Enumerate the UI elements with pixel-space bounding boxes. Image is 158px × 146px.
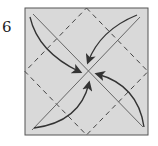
paper-square	[25, 8, 148, 135]
fold-diagram	[0, 0, 158, 146]
